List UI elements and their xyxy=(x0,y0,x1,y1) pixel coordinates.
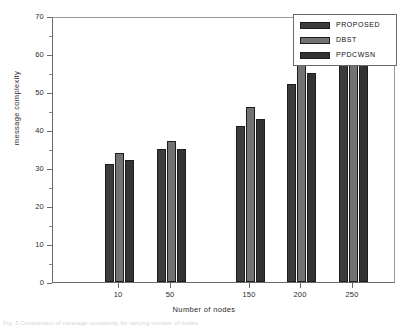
bar-dbst-200 xyxy=(297,62,306,282)
x-tick-label-10: 10 xyxy=(98,290,138,299)
bar-ppdcwsn-250 xyxy=(359,31,368,282)
bar-proposed-50 xyxy=(157,149,166,282)
y-axis-title-label: message complexity xyxy=(12,53,21,163)
x-tick-label-250: 250 xyxy=(332,290,372,299)
bar-ppdcwsn-150 xyxy=(256,119,265,282)
bar-proposed-200 xyxy=(287,84,296,282)
legend-label: PPDCWSN xyxy=(336,51,376,58)
chart-legend: PROPOSEDDBSTPPDCWSN xyxy=(293,14,397,66)
y-tick-label: 50 xyxy=(14,88,44,97)
y-tick-label: 60 xyxy=(14,50,44,59)
y-tick-label: 10 xyxy=(14,240,44,249)
bar-dbst-10 xyxy=(115,153,124,282)
bar-proposed-250 xyxy=(339,35,348,282)
x-tick xyxy=(249,283,250,288)
x-tick-label-150: 150 xyxy=(229,290,269,299)
legend-item-dbst: DBST xyxy=(300,35,392,46)
x-tick xyxy=(170,283,171,288)
legend-label: DBST xyxy=(336,36,357,43)
bar-dbst-50 xyxy=(167,141,176,282)
figure-caption: Fig. 5 Comparison of message complexity … xyxy=(3,320,333,329)
y-tick-major xyxy=(47,283,52,284)
x-tick xyxy=(352,283,353,288)
bar-proposed-10 xyxy=(105,164,114,282)
bar-ppdcwsn-50 xyxy=(177,149,186,282)
bar-ppdcwsn-10 xyxy=(125,160,134,282)
legend-swatch-dbst xyxy=(300,37,330,44)
legend-item-proposed: PROPOSED xyxy=(300,20,392,31)
bar-ppdcwsn-200 xyxy=(307,73,316,282)
x-axis-title: Number of nodes xyxy=(0,305,408,314)
x-tick-label-200: 200 xyxy=(280,290,320,299)
y-tick-label: 30 xyxy=(14,164,44,173)
x-tick xyxy=(300,283,301,288)
y-tick-label: 20 xyxy=(14,202,44,211)
bar-proposed-150 xyxy=(236,126,245,282)
bar-dbst-150 xyxy=(246,107,255,282)
x-tick-label-50: 50 xyxy=(150,290,190,299)
y-tick-label: 70 xyxy=(14,12,44,21)
legend-item-ppdcwsn: PPDCWSN xyxy=(300,50,392,61)
legend-swatch-proposed xyxy=(300,22,330,29)
chart-figure: message complexity 010203040506070 10501… xyxy=(0,0,408,331)
legend-label: PROPOSED xyxy=(336,21,380,28)
x-tick xyxy=(118,283,119,288)
y-tick-label: 0 xyxy=(14,278,44,287)
legend-swatch-ppdcwsn xyxy=(300,52,330,59)
y-tick-label: 40 xyxy=(14,126,44,135)
